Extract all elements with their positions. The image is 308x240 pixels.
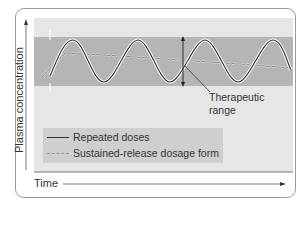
legend-item-sustained-release: Sustained-release dosage form	[43, 147, 219, 159]
annotation-line-1: Therapeutic	[209, 91, 264, 104]
legend-label: Repeated doses	[73, 131, 149, 143]
solid-line-swatch	[47, 137, 69, 138]
legend-label: Sustained-release dosage form	[73, 147, 219, 159]
annotation-line-2: range	[209, 104, 264, 117]
legend-item-repeated-doses: Repeated doses	[43, 131, 149, 143]
x-axis-label: Time	[34, 177, 58, 189]
therapeutic-range-annotation: Therapeutic range	[209, 91, 264, 117]
dashed-line-swatch	[47, 153, 69, 154]
legend: Repeated doses Sustained-release dosage …	[43, 128, 223, 163]
y-axis-label: Plasma concentration	[13, 43, 25, 153]
